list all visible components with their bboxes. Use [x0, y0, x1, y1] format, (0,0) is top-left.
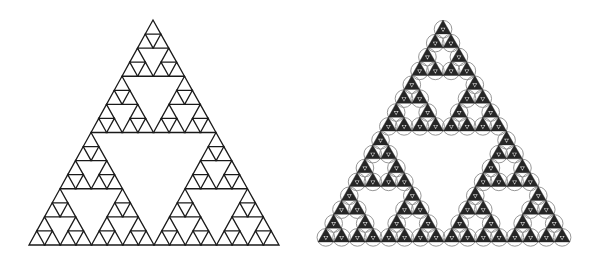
inner-cell-dot: [451, 236, 453, 238]
inner-cell-dot: [403, 181, 405, 183]
inner-cell-dot: [498, 125, 500, 127]
inner-cell-dot: [364, 167, 366, 169]
inner-cell-dot: [341, 236, 343, 238]
inner-cell-dot: [388, 181, 390, 183]
inner-cell-dot: [442, 28, 444, 30]
inner-cell-dot: [466, 125, 468, 127]
inner-cell-dot: [514, 181, 516, 183]
inner-cell-dot: [403, 125, 405, 127]
inner-cell-dot: [553, 222, 555, 224]
inner-cell-dot: [537, 195, 539, 197]
inner-cell-dot: [450, 42, 452, 44]
inner-cell-dot: [411, 84, 413, 86]
inner-cell-dot: [505, 139, 507, 141]
inner-cell-dot: [419, 98, 421, 100]
inner-cell-dot: [450, 125, 452, 127]
inner-cell-dot: [498, 181, 500, 183]
inner-cell-dot: [372, 236, 374, 238]
inner-cell-dot: [403, 209, 405, 211]
inner-cell-dot: [403, 98, 405, 100]
inner-cell-dot: [411, 195, 413, 197]
inner-cell-dot: [419, 70, 421, 72]
inner-cell-dot: [513, 153, 515, 155]
inner-cell-dot: [379, 139, 381, 141]
inner-cell-dot: [474, 84, 476, 86]
inner-cell-dot: [458, 111, 460, 113]
inner-cell-dot: [404, 236, 406, 238]
inner-cell-dot: [529, 181, 531, 183]
inner-cell-dot: [364, 222, 366, 224]
inner-cell-dot: [419, 236, 421, 238]
inner-cell-dot: [450, 70, 452, 72]
inner-cell-dot: [498, 153, 500, 155]
inner-cell-dot: [387, 153, 389, 155]
inner-cell-dot: [387, 125, 389, 127]
inner-cell-dot: [514, 236, 516, 238]
inner-cell-dot: [521, 167, 523, 169]
inner-cell-dot: [388, 236, 390, 238]
inner-cell-dot: [482, 98, 484, 100]
inner-cell-dot: [529, 209, 531, 211]
inner-cell-dot: [530, 236, 532, 238]
inner-cell-dot: [545, 236, 547, 238]
inner-cell-dot: [348, 195, 350, 197]
inner-cell-dot: [434, 42, 436, 44]
inner-cell-dot: [467, 236, 469, 238]
inner-cell-dot: [333, 222, 335, 224]
inner-cell-dot: [466, 209, 468, 211]
inner-cell-dot: [356, 209, 358, 211]
inner-cell-dot: [434, 70, 436, 72]
inner-cell-dot: [372, 181, 374, 183]
inner-cell-dot: [545, 209, 547, 211]
inner-cell-dot: [482, 209, 484, 211]
inner-cell-dot: [340, 209, 342, 211]
inner-cell-dot: [490, 167, 492, 169]
inner-cell-dot: [561, 236, 563, 238]
inner-cell-dot: [435, 125, 437, 127]
inner-cell-dot: [435, 236, 437, 238]
inner-cell-dot: [395, 111, 397, 113]
inner-cell-dot: [356, 181, 358, 183]
inner-cell-dot: [482, 125, 484, 127]
inner-cell-dot: [395, 167, 397, 169]
sierpinski-figure: [0, 0, 596, 264]
inner-cell-dot: [419, 125, 421, 127]
inner-cell-dot: [522, 222, 524, 224]
inner-cell-dot: [427, 222, 429, 224]
inner-cell-dot: [482, 181, 484, 183]
inner-cell-dot: [490, 222, 492, 224]
inner-cell-dot: [474, 195, 476, 197]
inner-cell-dot: [482, 236, 484, 238]
inner-cell-dot: [498, 236, 500, 238]
inner-cell-dot: [372, 153, 374, 155]
inner-cell-dot: [325, 236, 327, 238]
inner-cell-dot: [356, 236, 358, 238]
inner-cell-dot: [427, 111, 429, 113]
inner-cell-dot: [466, 98, 468, 100]
inner-cell-dot: [426, 56, 428, 58]
inner-cell-dot: [459, 222, 461, 224]
inner-cell-dot: [419, 209, 421, 211]
inner-cell-dot: [458, 56, 460, 58]
inner-cell-dot: [396, 222, 398, 224]
inner-cell-dot: [466, 70, 468, 72]
inner-cell-dot: [490, 111, 492, 113]
